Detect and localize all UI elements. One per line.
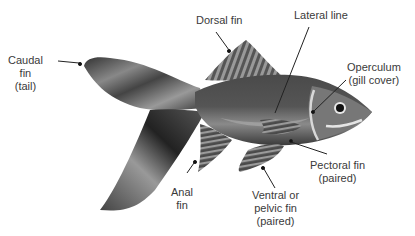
label-line: (paired) xyxy=(252,215,299,228)
label-line: (gill cover) xyxy=(347,74,401,87)
label-caudal-fin: Caudal fin (tail) xyxy=(8,54,43,93)
label-line: Pectoral fin xyxy=(310,159,365,172)
label-line: (tail) xyxy=(8,80,43,93)
dorsal-fin-shape xyxy=(205,40,282,81)
fish-illustration xyxy=(0,0,415,236)
label-line: (paired) xyxy=(310,172,365,185)
caudal-fin-upper xyxy=(84,57,205,110)
label-line: Lateral line xyxy=(294,9,348,22)
label-line: Ventral or xyxy=(252,189,299,202)
label-line: Anal xyxy=(171,186,193,199)
label-line: Caudal xyxy=(8,54,43,67)
label-ventral-fin: Ventral or pelvic fin (paired) xyxy=(252,189,299,228)
label-dorsal-fin: Dorsal fin xyxy=(196,14,242,27)
label-line: Dorsal fin xyxy=(196,14,242,27)
label-line: fin xyxy=(8,67,43,80)
label-anal-fin: Anal fin xyxy=(171,186,193,212)
label-pectoral-fin: Pectoral fin (paired) xyxy=(310,159,365,185)
label-operculum: Operculum (gill cover) xyxy=(347,61,401,87)
label-line: fin xyxy=(171,199,193,212)
label-line: Operculum xyxy=(347,61,401,74)
label-line: pelvic fin xyxy=(252,202,299,215)
fish-anatomy-diagram: Caudal fin (tail) Dorsal fin Lateral lin… xyxy=(0,0,415,236)
label-lateral-line: Lateral line xyxy=(294,9,348,22)
